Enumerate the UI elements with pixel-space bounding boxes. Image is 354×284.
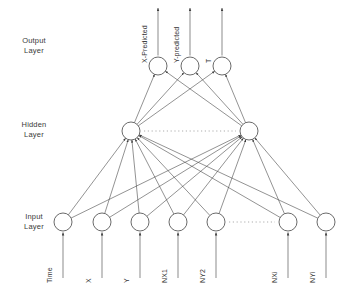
hidden-layer-label-line2: Layer (8, 130, 60, 140)
input-label-in-nxi: NXi (271, 271, 278, 283)
hidden-node (240, 122, 258, 140)
connection-edge (110, 136, 242, 218)
output-node (149, 57, 167, 75)
output-node (181, 57, 199, 75)
input-layer-label: Input Layer (8, 212, 60, 232)
output-label-out-x: X-Predicted (141, 25, 148, 63)
input-label-in-nx1: NX1 (161, 269, 168, 283)
connection-edge (135, 139, 174, 214)
input-node (169, 213, 187, 231)
input-label-in-time: Time (46, 267, 53, 283)
input-layer-nodes (54, 213, 335, 231)
connection-edge (225, 74, 245, 122)
output-label-out-t: T (205, 59, 212, 63)
hidden-node (122, 122, 140, 140)
edges-hidden-to-output (134, 71, 245, 126)
input-stems (63, 233, 326, 279)
input-label-in-ny2: NY2 (199, 269, 206, 283)
connection-edge (137, 138, 210, 216)
connection-edge (253, 139, 285, 213)
connection-edge (68, 138, 125, 215)
input-node (317, 213, 335, 231)
input-layer-label-line1: Input (8, 212, 60, 222)
diagram-canvas: Output Layer Hidden Layer Input Layer Ti… (0, 0, 354, 284)
connection-edge (219, 139, 246, 213)
input-layer-label-line2: Layer (8, 222, 60, 232)
connection-edge (132, 140, 139, 213)
connection-edge (139, 135, 318, 218)
connection-edge (134, 74, 154, 122)
output-layer-label-line2: Layer (8, 46, 60, 56)
input-label-in-nyi: NYi (309, 272, 316, 283)
input-node (279, 213, 297, 231)
output-layer-label-line1: Output (8, 36, 60, 46)
connection-edge (184, 138, 244, 215)
input-label-in-x: X (85, 278, 92, 283)
output-layer-nodes (149, 57, 231, 75)
output-layer-label: Output Layer (8, 36, 60, 56)
input-node (93, 213, 111, 231)
input-node (207, 213, 225, 231)
hidden-layer-label: Hidden Layer (8, 120, 60, 140)
output-label-out-y: Y-predicted (173, 27, 180, 63)
input-node (131, 213, 149, 231)
output-stems (158, 8, 222, 56)
connection-edge (71, 135, 241, 218)
edges-input-to-hidden (68, 135, 320, 218)
input-label-in-y: Y (123, 278, 130, 283)
connection-edge (255, 138, 320, 215)
hidden-layer-label-line1: Hidden (8, 120, 60, 130)
output-node (213, 57, 231, 75)
